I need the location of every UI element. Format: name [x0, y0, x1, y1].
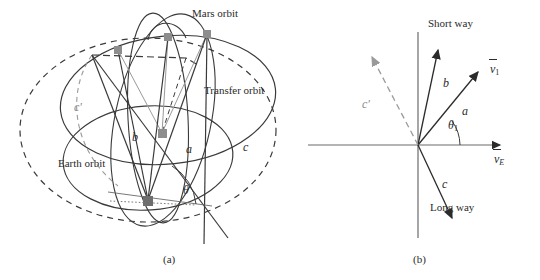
- label-vector-b: b: [443, 77, 449, 89]
- label-axis-ve: vE: [494, 152, 504, 167]
- label-leg-b: b: [132, 131, 138, 143]
- vector-c-prime: [372, 57, 418, 145]
- label-leg-c: c: [243, 141, 248, 153]
- panel-b-velocity-diagram: Short way Long way b a c c' θ1 v1 vE (b): [300, 0, 540, 280]
- panel-a-orbit-diagram: Mars orbit Transfer orbit Earth orbit a …: [0, 0, 300, 280]
- figure-root: Mars orbit Transfer orbit Earth orbit a …: [0, 0, 540, 280]
- top-dashed-chord: [92, 55, 200, 66]
- vector-b: [418, 50, 438, 145]
- chord-depart-to-node-2: [148, 37, 168, 200]
- label-short-way: Short way: [428, 18, 473, 29]
- panel-b-svg: [300, 0, 540, 280]
- label-angle-theta-1: θ1: [448, 118, 458, 133]
- theta-subscript: 1: [454, 124, 458, 133]
- label-leg-c-prime: c': [74, 101, 82, 113]
- label-vector-c: c: [442, 178, 447, 190]
- caption-panel-a: (a): [163, 253, 175, 265]
- label-vector-a: a: [462, 105, 468, 117]
- caption-panel-b: (b): [413, 253, 426, 265]
- ve-glyph: v: [494, 152, 499, 167]
- v1-subscript: 1: [495, 68, 499, 77]
- chord-long-way-right: [92, 55, 228, 238]
- label-axis-v1: v1: [490, 62, 499, 77]
- label-earth-orbit: Earth orbit: [58, 158, 105, 169]
- v1-glyph: v: [490, 62, 495, 77]
- leg-focus-to-node-3: [162, 34, 207, 133]
- chord-depart-to-node-3: [148, 34, 207, 200]
- label-long-way: Long way: [430, 202, 474, 213]
- label-mars-orbit: Mars orbit: [192, 8, 238, 19]
- panel-a-svg: [0, 0, 300, 280]
- chord-depart-to-cprime: [92, 55, 148, 200]
- ve-subscript: E: [499, 158, 504, 167]
- label-leg-a: a: [186, 143, 192, 155]
- label-angle-theta-a: θ: [183, 184, 189, 196]
- label-vector-c-prime: c': [362, 98, 370, 110]
- label-transfer-orbit: Transfer orbit: [204, 85, 264, 96]
